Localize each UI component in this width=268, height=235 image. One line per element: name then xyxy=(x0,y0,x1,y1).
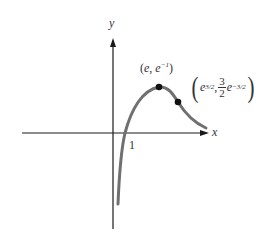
inflection-point-label: ( e3/2, 32 e−3/2 ) xyxy=(190,72,256,102)
x-axis-label: x xyxy=(212,126,217,138)
tick-label-1: 1 xyxy=(129,139,135,151)
inflection-point xyxy=(175,99,182,106)
graph-canvas xyxy=(0,0,268,235)
maximum-point-label: (e, e−1) xyxy=(140,62,173,74)
y-axis-arrow-icon xyxy=(110,38,116,47)
x-axis-arrow-icon xyxy=(200,130,209,136)
fraction-three-halves: 32 xyxy=(218,76,226,99)
maximum-point xyxy=(156,84,163,91)
y-axis-label: y xyxy=(109,17,114,29)
